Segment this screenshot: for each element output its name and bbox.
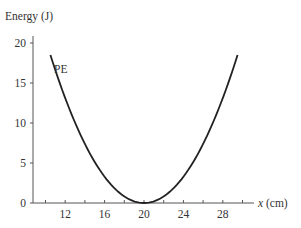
energy-chart: 05101520 1216202428 Energy (J) x (cm) PE <box>0 0 301 228</box>
y-axis-label: Energy (J) <box>5 10 53 23</box>
y-tick-label: 15 <box>15 77 27 89</box>
y-tick-label: 20 <box>15 37 27 49</box>
y-tick-label: 5 <box>20 157 26 169</box>
y-tick-label: 0 <box>20 197 26 209</box>
x-tick-label: 28 <box>217 208 229 220</box>
y-axis: 05101520 <box>15 36 34 209</box>
x-tick-label: 12 <box>59 208 71 220</box>
y-tick-label: 10 <box>15 117 27 129</box>
x-axis-label: x (cm) <box>257 197 288 210</box>
pe-label: PE <box>54 63 67 75</box>
x-tick-label: 20 <box>138 208 150 220</box>
x-tick-label: 24 <box>178 208 190 220</box>
pe-curve <box>50 55 237 203</box>
x-tick-label: 16 <box>99 208 111 220</box>
